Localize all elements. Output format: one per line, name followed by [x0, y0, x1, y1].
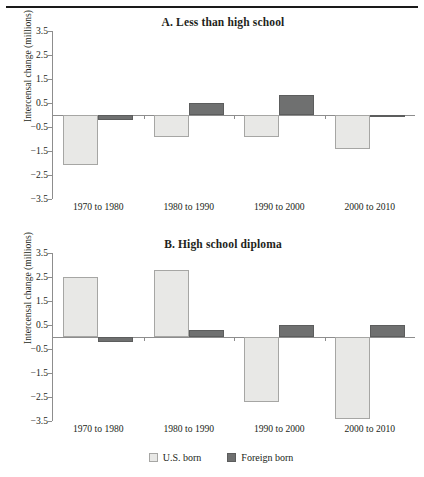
x-tick-label: 2000 to 2010	[344, 421, 395, 437]
chart-a-plot-area	[53, 31, 415, 199]
bar-foreign-born	[370, 325, 405, 337]
y-tick-mark	[47, 277, 52, 278]
bar-foreign-born	[98, 115, 133, 120]
bar-us-born	[63, 277, 98, 337]
x-tick-label: 1990 to 2000	[254, 421, 305, 437]
x-tick-label: 1980 to 1990	[163, 421, 214, 437]
y-tick-mark	[47, 55, 52, 56]
y-tick-label: −2.5	[31, 170, 48, 180]
bar-us-born	[335, 115, 370, 149]
chart-panel-b: B. High school diploma Intercensal chang…	[0, 236, 424, 421]
category-tick	[325, 115, 326, 119]
figure-page: A. Less than high school Intercensal cha…	[0, 0, 424, 477]
chart-panel-a: A. Less than high school Intercensal cha…	[0, 14, 424, 199]
bar-us-born	[154, 115, 189, 137]
legend-label-foreign-born: Foreign born	[241, 452, 293, 463]
legend-swatch-us-born-icon	[149, 453, 158, 462]
y-tick-mark	[47, 373, 52, 374]
bar-foreign-born	[189, 103, 224, 115]
y-tick-mark	[47, 349, 52, 350]
y-tick-label: −0.5	[31, 344, 48, 354]
y-tick-label: −1.5	[31, 146, 48, 156]
category-tick	[325, 337, 326, 341]
legend-item-us-born: U.S. born	[149, 452, 202, 463]
chart-a-y-tick-labels: 3.52.51.50.5−0.5−1.5−2.5−3.5	[20, 31, 48, 199]
y-tick-label: −3.5	[31, 416, 48, 426]
x-tick-label: 1980 to 1990	[163, 199, 214, 215]
x-tick-label: 1990 to 2000	[254, 199, 305, 215]
chart-b-y-tick-labels: 3.52.51.50.5−0.5−1.5−2.5−3.5	[20, 253, 48, 421]
y-tick-mark	[47, 79, 52, 80]
bar-foreign-born	[370, 115, 405, 117]
x-tick-label: 2000 to 2010	[344, 199, 395, 215]
chart-b-plot-row: Intercensal change (millions) 3.52.51.50…	[0, 253, 424, 421]
bar-us-born	[335, 337, 370, 419]
category-tick	[144, 115, 145, 119]
chart-a-plot-row: Intercensal change (millions) 3.52.51.50…	[0, 31, 424, 199]
y-tick-label: −2.5	[31, 392, 48, 402]
y-tick-mark	[47, 127, 52, 128]
chart-b-title: B. High school diploma	[0, 236, 424, 253]
legend-item-foreign-born: Foreign born	[227, 452, 293, 463]
y-tick-mark	[47, 151, 52, 152]
y-tick-mark	[47, 325, 52, 326]
y-tick-mark	[47, 253, 52, 254]
category-tick	[144, 337, 145, 341]
y-tick-label: −1.5	[31, 368, 48, 378]
y-tick-label: −3.5	[31, 194, 48, 204]
category-tick	[234, 337, 235, 341]
y-tick-mark	[47, 397, 52, 398]
y-tick-mark	[47, 31, 52, 32]
bar-foreign-born	[189, 330, 224, 337]
y-tick-mark	[47, 421, 52, 422]
chart-a-title: A. Less than high school	[0, 14, 424, 31]
legend-swatch-foreign-born-icon	[227, 453, 236, 462]
bar-us-born	[244, 115, 279, 137]
y-tick-mark	[47, 301, 52, 302]
category-tick	[234, 115, 235, 119]
bar-us-born	[63, 115, 98, 165]
chart-b-plot-area	[53, 253, 415, 421]
y-tick-mark	[47, 175, 52, 176]
bar-us-born	[244, 337, 279, 402]
y-tick-mark	[47, 199, 52, 200]
chart-legend: U.S. born Foreign born	[0, 452, 424, 463]
y-tick-label: −0.5	[31, 122, 48, 132]
top-horizontal-rule	[6, 6, 418, 8]
x-tick-label: 1970 to 1980	[73, 199, 124, 215]
legend-label-us-born: U.S. born	[163, 452, 202, 463]
chart-b-x-tick-labels: 1970 to 19801980 to 19901990 to 20002000…	[53, 421, 415, 437]
bar-foreign-born	[279, 325, 314, 337]
bar-us-born	[154, 270, 189, 337]
chart-a-x-tick-labels: 1970 to 19801980 to 19901990 to 20002000…	[53, 199, 415, 215]
y-tick-mark	[47, 103, 52, 104]
x-tick-label: 1970 to 1980	[73, 421, 124, 437]
bar-foreign-born	[279, 95, 314, 115]
bar-foreign-born	[98, 337, 133, 342]
